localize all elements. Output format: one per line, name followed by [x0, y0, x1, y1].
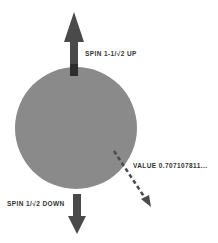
value-dashed-arrow — [114, 151, 151, 207]
spin-down-label: SPIN 1/√2 DOWN — [7, 200, 65, 207]
value-label: VALUE 0.707107811... — [133, 162, 207, 169]
spin-up-arrow — [64, 12, 84, 76]
particle-sphere — [15, 67, 137, 189]
spin-up-label: SPIN 1-1/√2 UP — [85, 50, 137, 57]
spin-down-arrow — [68, 194, 86, 234]
